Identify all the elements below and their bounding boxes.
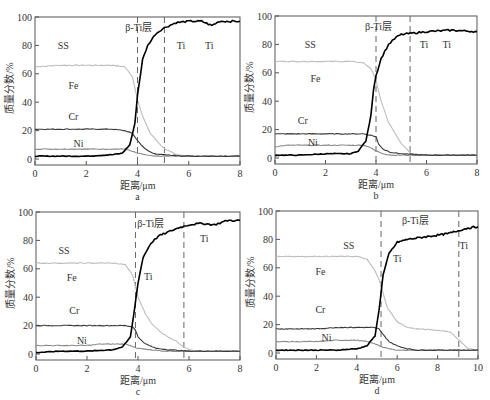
annotation-label: β-Ti层 bbox=[365, 21, 392, 32]
x-tick-label: 8 bbox=[238, 363, 243, 374]
annotation-label: Fe bbox=[67, 272, 78, 283]
annotation-label: Cr bbox=[298, 115, 309, 126]
x-tick-label: 0 bbox=[34, 363, 39, 374]
panel-caption: d bbox=[375, 385, 380, 396]
y-tick-label: 80 bbox=[23, 235, 33, 246]
x-tick-label: 4 bbox=[354, 362, 359, 373]
panel-caption: a bbox=[135, 191, 140, 202]
annotation-label: Ti bbox=[442, 39, 451, 50]
panel-b: 02040608010002468SSβ-Ti层TiTiFeCrNi距离/μmb… bbox=[243, 11, 480, 202]
y-tick-label: 20 bbox=[263, 319, 273, 330]
panel-caption: b bbox=[374, 190, 379, 201]
y-tick-label: 60 bbox=[22, 68, 32, 79]
x-tick-label: 4 bbox=[135, 168, 140, 179]
x-tick-label: 2 bbox=[85, 363, 90, 374]
figure: 02040608010002468SSβ-Ti层TiTiFeCrNi距离/μma… bbox=[0, 0, 490, 400]
annotation-label: SS bbox=[305, 39, 316, 50]
y-tick-label: 60 bbox=[23, 263, 33, 274]
y-tick-label: 40 bbox=[23, 292, 33, 303]
y-tick-label: 100 bbox=[257, 11, 272, 22]
annotation-label: Ti bbox=[200, 233, 209, 244]
chart-canvas: 02040608010002468SSβ-Ti层TiTiFeCrNi距离/μma… bbox=[0, 0, 490, 400]
x-tick-label: 8 bbox=[475, 167, 480, 178]
annotation-label: β-Ti层 bbox=[137, 218, 164, 229]
series-ti-line bbox=[36, 220, 240, 353]
y-tick-label: 40 bbox=[262, 96, 272, 107]
series-fe-line bbox=[276, 256, 478, 350]
annotation-label: Ti bbox=[144, 271, 153, 282]
y-tick-label: 0 bbox=[27, 154, 32, 165]
annotation-label: Ti bbox=[393, 253, 402, 264]
annotation-label: Fe bbox=[315, 266, 326, 277]
y-tick-label: 60 bbox=[263, 262, 273, 273]
x-tick-label: 6 bbox=[186, 168, 191, 179]
annotation-label: Ti bbox=[460, 240, 469, 251]
x-tick-label: 2 bbox=[323, 167, 328, 178]
y-tick-label: 0 bbox=[267, 153, 272, 164]
y-tick-label: 20 bbox=[23, 320, 33, 331]
series-cr-line bbox=[275, 134, 477, 156]
annotation-label: β-Ti层 bbox=[125, 22, 152, 33]
annotation-label: Ni bbox=[77, 335, 87, 346]
y-tick-label: 40 bbox=[22, 97, 32, 108]
y-tick-label: 0 bbox=[28, 349, 33, 360]
panel-a: 02040608010002468SSβ-Ti层TiTiFeCrNi距离/μma… bbox=[3, 12, 243, 203]
annotation-label: Fe bbox=[68, 80, 79, 91]
panel-caption: c bbox=[136, 386, 141, 397]
x-tick-label: 6 bbox=[187, 363, 192, 374]
annotation-label: SS bbox=[58, 40, 69, 51]
x-tick-label: 8 bbox=[435, 362, 440, 373]
series-cr-line bbox=[276, 327, 478, 350]
y-tick-label: 100 bbox=[18, 207, 33, 218]
y-tick-label: 80 bbox=[22, 40, 32, 51]
y-axis-label: 质量分数/% bbox=[244, 256, 256, 307]
panel-d: 0204060801000246810SSβ-Ti层TiFeTiCrNi距离/μ… bbox=[244, 206, 483, 397]
x-tick-label: 2 bbox=[84, 168, 89, 179]
y-tick-label: 0 bbox=[268, 348, 273, 359]
y-axis-label: 质量分数/% bbox=[3, 62, 15, 113]
annotation-label: Cr bbox=[315, 304, 326, 315]
y-tick-label: 80 bbox=[262, 39, 272, 50]
x-tick-label: 0 bbox=[273, 167, 278, 178]
annotation-label: Ti bbox=[205, 40, 214, 51]
annotation-label: SS bbox=[343, 240, 354, 251]
x-tick-label: 0 bbox=[274, 362, 279, 373]
y-tick-label: 20 bbox=[22, 125, 32, 136]
x-tick-label: 4 bbox=[374, 167, 379, 178]
annotation-label: Cr bbox=[68, 111, 79, 122]
series-ni-line bbox=[36, 344, 240, 352]
series-ni-line bbox=[276, 340, 478, 351]
x-tick-label: 2 bbox=[314, 362, 319, 373]
x-tick-label: 8 bbox=[238, 168, 243, 179]
y-axis-label: 质量分数/% bbox=[243, 61, 255, 112]
annotation-label: Ti bbox=[177, 40, 186, 51]
x-tick-label: 6 bbox=[424, 167, 429, 178]
x-tick-label: 0 bbox=[33, 168, 38, 179]
annotation-label: SS bbox=[58, 245, 69, 256]
y-tick-label: 100 bbox=[258, 206, 273, 217]
y-tick-label: 20 bbox=[262, 124, 272, 135]
panel-c: 02040608010002468SSβ-Ti层TiFeTiCrNi距离/μmc… bbox=[4, 207, 243, 398]
y-tick-label: 40 bbox=[263, 291, 273, 302]
annotation-label: Fe bbox=[310, 73, 321, 84]
annotation-label: Ni bbox=[74, 138, 84, 149]
x-axis-label: 距离/μm bbox=[120, 179, 156, 191]
y-tick-label: 60 bbox=[262, 67, 272, 78]
series-cr-line bbox=[36, 325, 240, 351]
x-tick-label: 10 bbox=[473, 362, 483, 373]
annotation-label: Ti bbox=[420, 39, 429, 50]
y-tick-label: 100 bbox=[17, 12, 32, 23]
annotation-label: Ni bbox=[308, 137, 318, 148]
y-axis-label: 质量分数/% bbox=[4, 257, 16, 308]
x-axis-label: 距离/μm bbox=[120, 374, 156, 386]
x-tick-label: 4 bbox=[136, 363, 141, 374]
annotation-label: Ni bbox=[322, 332, 332, 343]
annotation-label: Cr bbox=[69, 305, 80, 316]
x-tick-label: 6 bbox=[395, 362, 400, 373]
x-axis-label: 距离/μm bbox=[358, 178, 394, 190]
x-axis-label: 距离/μm bbox=[359, 373, 395, 385]
y-tick-label: 80 bbox=[263, 234, 273, 245]
annotation-label: β-Ti层 bbox=[402, 215, 429, 226]
